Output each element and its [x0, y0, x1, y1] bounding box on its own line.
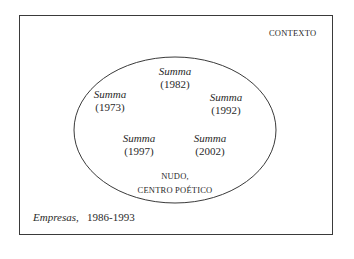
node-title: Summa — [159, 65, 191, 78]
context-frame — [19, 15, 333, 235]
node-summa-1997: Summa (1997) — [123, 132, 155, 158]
node-summa-2002: Summa (2002) — [194, 132, 226, 158]
node-year: (2002) — [194, 145, 226, 158]
core-label-line2: CENTRO POÉTICO — [138, 184, 213, 197]
node-title: Summa — [94, 88, 126, 101]
caption-years: 1986-1993 — [87, 211, 135, 223]
core-label-line1: NUDO, — [161, 170, 189, 183]
caption-title: Empresas, — [33, 211, 79, 223]
node-title: Summa — [123, 132, 155, 145]
node-summa-1982: Summa (1982) — [159, 65, 191, 91]
node-title: Summa — [194, 132, 226, 145]
context-label: CONTEXTO — [269, 27, 316, 40]
caption: Empresas, 1986-1993 — [33, 210, 135, 224]
node-summa-1992: Summa (1992) — [210, 91, 242, 117]
node-year: (1982) — [159, 78, 191, 91]
node-year: (1992) — [210, 104, 242, 117]
diagram: CONTEXTO Summa (1982) Summa (1973) Summa… — [0, 0, 354, 259]
caption-spacer — [81, 211, 84, 223]
node-summa-1973: Summa (1973) — [94, 88, 126, 114]
node-title: Summa — [210, 91, 242, 104]
node-year: (1997) — [123, 145, 155, 158]
node-year: (1973) — [94, 101, 126, 114]
